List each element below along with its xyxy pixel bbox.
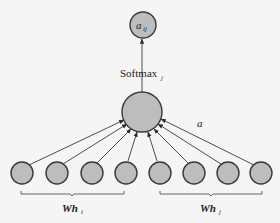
brace-left xyxy=(21,191,124,196)
input-node-i-2 xyxy=(46,162,68,184)
group-label-right: Wh xyxy=(200,202,216,214)
output-node: a ij xyxy=(130,12,156,38)
input-node-j-4 xyxy=(250,162,272,184)
softmax-label: Softmax xyxy=(120,67,158,79)
output-node-subscript: ij xyxy=(143,25,147,33)
output-node-label: a xyxy=(136,19,142,31)
input-node-i-4 xyxy=(115,162,137,184)
group-subscript-right: j xyxy=(218,208,221,216)
attention-label: a xyxy=(197,117,203,129)
attention-node xyxy=(122,92,162,132)
group-label-left: Wh xyxy=(62,202,78,214)
attention-diagram: a ij Softmax j a Wh i Wh j xyxy=(0,0,280,223)
group-subscript-left: i xyxy=(81,208,83,216)
input-node-i-3 xyxy=(81,162,103,184)
input-nodes xyxy=(11,162,272,184)
brace-right xyxy=(160,191,262,196)
input-node-j-1 xyxy=(149,162,171,184)
softmax-subscript: j xyxy=(160,74,163,82)
input-node-i-1 xyxy=(11,162,33,184)
input-node-j-3 xyxy=(217,162,239,184)
input-node-j-2 xyxy=(183,162,205,184)
